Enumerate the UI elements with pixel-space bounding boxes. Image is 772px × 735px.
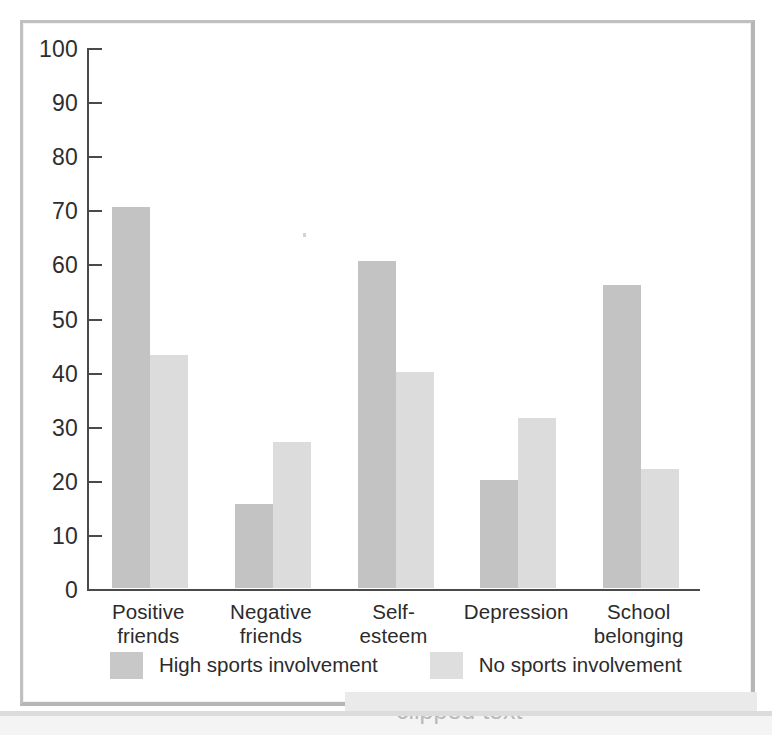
bar-no-sports-2 [396,372,434,588]
legend-label: High sports involvement [159,655,378,676]
legend-swatch-icon [430,652,463,679]
y-tick-mark [89,427,102,429]
bar-high-sports-2 [358,261,396,588]
bar-high-sports-0 [112,207,150,588]
category-label-2: Self- esteem [322,600,465,648]
clipped-caption-text: clipped text [396,716,522,725]
clipped-caption-artifact: clipped text [0,716,772,735]
category-label-0: Positive friends [77,600,220,648]
y-tick-mark [89,589,102,591]
y-tick-label: 80 [52,146,78,169]
category-label-1: Negative friends [200,600,343,648]
bar-high-sports-4 [603,285,641,588]
y-tick-label: 10 [52,524,78,547]
legend-entry-no-sports: No sports involvement [430,652,682,679]
y-tick-mark [89,48,102,50]
y-tick-label: 100 [39,38,78,61]
bar-high-sports-3 [480,480,518,588]
y-tick-label: 40 [52,362,78,385]
bar-no-sports-4 [641,469,679,588]
category-label-3: Depression [445,600,588,624]
bar-no-sports-3 [518,418,556,588]
y-tick-mark [89,373,102,375]
y-tick-label: 30 [52,416,78,439]
x-axis-line [87,589,700,591]
bar-high-sports-1 [235,504,273,588]
y-tick-mark [89,535,102,537]
y-tick-label: 70 [52,200,78,223]
y-tick-mark [89,481,102,483]
y-tick-mark [89,210,102,212]
bar-chart-plot-area: 1009080706050403020100 Positive friendsN… [87,48,700,590]
y-tick-mark [89,156,102,158]
clipped-panel-artifact [345,692,757,712]
legend-swatch-icon [110,652,143,679]
y-tick-label: 90 [52,92,78,115]
legend-entry-high-sports: High sports involvement [110,652,378,679]
y-tick-label: 20 [52,470,78,493]
category-label-4: School belonging [567,600,710,648]
chart-legend: High sports involvementNo sports involve… [110,652,682,679]
y-tick-mark [89,264,102,266]
legend-label: No sports involvement [479,655,682,676]
y-tick-mark [89,319,102,321]
y-tick-mark [89,102,102,104]
y-tick-label: 0 [65,579,78,602]
bar-no-sports-0 [150,355,188,588]
bar-no-sports-1 [273,442,311,588]
y-tick-label: 60 [52,254,78,277]
y-tick-label: 50 [52,308,78,331]
